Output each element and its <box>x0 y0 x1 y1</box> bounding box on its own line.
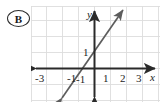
graph-screenshot: B <box>0 0 166 106</box>
problem-label-badge: B <box>7 10 30 27</box>
x-tick-label-2: 2 <box>120 73 126 84</box>
coordinate-plane: -3 -1 1 2 3 1 -1 y x <box>31 6 160 102</box>
y-tick-label-neg1: -1 <box>76 74 85 85</box>
x-tick-label-neg3: -3 <box>35 73 44 84</box>
y-axis-name: y <box>87 9 92 20</box>
axes-and-plot <box>31 6 160 102</box>
y-tick-label-1: 1 <box>83 47 89 58</box>
problem-label-text: B <box>8 13 29 24</box>
x-tick-label-neg1: -1 <box>67 73 76 84</box>
x-axis-name: x <box>150 72 155 83</box>
x-tick-label-1: 1 <box>103 73 109 84</box>
x-tick-label-3: 3 <box>136 73 142 84</box>
plotted-line <box>56 10 124 100</box>
